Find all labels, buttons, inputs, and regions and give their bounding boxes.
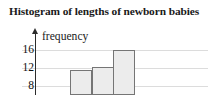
histogram-bar bbox=[92, 67, 114, 95]
histogram-bar bbox=[113, 50, 135, 95]
y-tick-label-8: 8 bbox=[14, 80, 34, 92]
histogram-figure: Histogram of lengths of newborn babies 1… bbox=[0, 0, 208, 95]
y-axis-tick-labels: 16 12 8 bbox=[10, 28, 34, 95]
y-axis-line bbox=[35, 33, 36, 95]
y-axis-arrow-icon bbox=[32, 28, 38, 34]
y-axis-label: frequency bbox=[42, 30, 88, 43]
y-tick-label-12: 12 bbox=[14, 62, 34, 74]
histogram-bar bbox=[70, 70, 92, 95]
chart-title: Histogram of lengths of newborn babies bbox=[0, 5, 208, 17]
plot-area: 16 12 8 frequency bbox=[22, 28, 208, 95]
y-tick-label-16: 16 bbox=[14, 44, 34, 56]
